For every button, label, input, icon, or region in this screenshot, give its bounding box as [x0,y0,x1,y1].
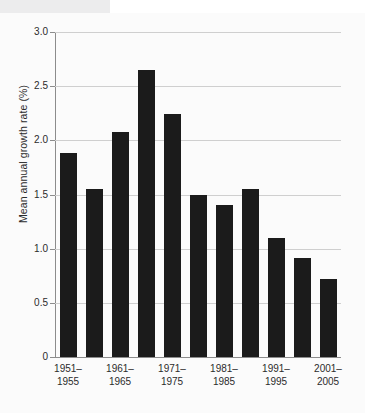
y-tick-label: 0 [6,351,48,362]
x-tick-label-line2: 2005 [301,375,355,388]
bar [268,238,285,357]
y-axis-tick-labels: 00.51.01.52.02.53.0 [0,32,48,358]
y-tick-label: 3.0 [6,26,48,37]
x-tick-label: 1991–1995 [249,362,303,388]
y-tick-mark [50,357,55,358]
gridline [55,86,341,87]
bar [60,153,77,357]
x-tick-label-line2: 1975 [145,375,199,388]
x-tick-label: 1971–1975 [145,362,199,388]
bar [190,195,207,358]
x-tick-label-line1: 1991– [262,363,290,374]
y-tick-label: 1.0 [6,243,48,254]
y-tick-mark [50,303,55,304]
x-tick-label-line1: 1981– [210,363,238,374]
x-tick-label-line2: 1995 [249,375,303,388]
x-tick-label: 1961–1965 [93,362,147,388]
bar [242,189,259,357]
x-tick-label-line1: 1951– [54,363,82,374]
plot-area [55,32,341,357]
bar [294,258,311,357]
x-tick-label: 2001–2005 [301,362,355,388]
y-tick-mark [50,249,55,250]
y-tick-mark [50,32,55,33]
x-tick-label: 1951–1955 [41,362,95,388]
bar-chart-figure: Mean annual growth rate (%) 00.51.01.52.… [0,0,365,413]
y-tick-label: 2.5 [6,80,48,91]
y-tick-mark [50,140,55,141]
bar [112,132,129,357]
y-tick-label: 0.5 [6,297,48,308]
gridline [55,32,341,33]
y-tick-mark [50,86,55,87]
x-tick-label-line2: 1985 [197,375,251,388]
y-tick-label: 2.0 [6,134,48,145]
x-tick-label-line2: 1955 [41,375,95,388]
bar [216,205,233,357]
y-tick-mark [50,195,55,196]
bar [86,189,103,357]
bar [164,114,181,357]
x-tick-label-line1: 1961– [106,363,134,374]
x-axis-baseline [55,357,341,358]
x-tick-label-line1: 1971– [158,363,186,374]
bar [320,279,337,357]
y-tick-label: 1.5 [6,189,48,200]
x-tick-label-line2: 1965 [93,375,147,388]
x-tick-label-line1: 2001– [314,363,342,374]
gridline [55,140,341,141]
bar [138,70,155,357]
x-axis-tick-labels: 1951–19551961–19651971–19751981–19851991… [55,362,341,407]
x-tick-label: 1981–1985 [197,362,251,388]
